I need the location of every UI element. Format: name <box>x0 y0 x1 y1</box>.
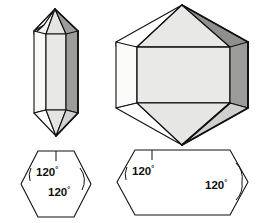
elongated-hexagon-section: 120° 120° <box>117 150 248 215</box>
angle-label-upper-left: 120° <box>132 164 154 177</box>
hexagon-outline <box>117 150 248 215</box>
left-prism-face <box>116 42 137 108</box>
prismatic-crystal <box>34 9 78 136</box>
front-prism-face <box>137 47 230 103</box>
crystal-habit-figure: 120° 120° 120° 120° <box>0 0 256 223</box>
right-prism-face <box>230 42 248 108</box>
front-prism-face <box>46 34 66 110</box>
equant-crystal <box>116 5 248 145</box>
angle-label-upper-left: 120° <box>36 165 58 178</box>
right-prism-face <box>66 31 78 113</box>
angle-label-right: 120° <box>205 178 227 191</box>
angle-label-lower-right: 120° <box>48 185 70 198</box>
left-prism-face <box>34 31 46 113</box>
figure-canvas: 120° 120° 120° 120° <box>0 0 256 223</box>
regular-hexagon-section: 120° 120° <box>21 151 91 217</box>
